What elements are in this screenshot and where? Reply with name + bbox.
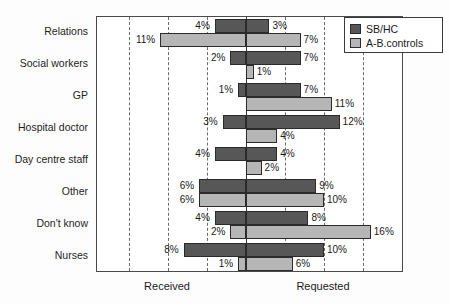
value-label: 6%: [180, 193, 194, 207]
value-label: 6%: [180, 179, 194, 193]
value-label: 1%: [257, 65, 271, 79]
value-label: 16%: [374, 225, 394, 239]
category-label-relations: Relations: [0, 25, 88, 37]
legend-item-sb[interactable]: SB/HC: [350, 22, 437, 35]
bar-sbhc-left: [215, 211, 246, 225]
bar-ab-controls-left: [160, 33, 246, 47]
bar-sbhc-right: [246, 243, 324, 257]
value-label: 10%: [327, 193, 347, 207]
bar-sbhc-left: [230, 51, 246, 65]
bar-ab-controls-left: [230, 225, 246, 239]
value-label: 8%: [164, 243, 178, 257]
bar-ab-controls-right: [246, 225, 371, 239]
bar-sbhc-right: [246, 147, 277, 161]
value-label: 1%: [219, 257, 233, 271]
bar-sbhc-left: [199, 179, 246, 193]
category-label-nurses: Nurses: [0, 249, 88, 261]
axis-caption-requested: Requested: [296, 280, 349, 292]
bar-ab-controls-right: [246, 193, 324, 207]
bar-sbhc-right: [246, 179, 316, 193]
bar-sbhc-right: [246, 19, 269, 33]
value-label: 11%: [136, 33, 155, 47]
bar-ab-controls-right: [246, 257, 293, 271]
plot-area: 4%3%11%7%2%7%1%1%7%11%3%12%4%4%4%2%6%9%6…: [96, 16, 403, 272]
value-label: 4%: [280, 129, 294, 143]
bar-sbhc-right: [246, 83, 301, 97]
value-label: 1%: [219, 83, 233, 97]
bar-ab-controls-right: [246, 161, 262, 175]
legend-label: SB/HC: [366, 23, 398, 35]
bar-sbhc-right: [246, 51, 301, 65]
legend-swatch-icon: [350, 38, 361, 48]
value-label: 9%: [319, 179, 333, 193]
bar-ab-controls-right: [246, 65, 254, 79]
value-label: 7%: [304, 33, 318, 47]
value-label: 3%: [272, 19, 286, 33]
value-label: 4%: [280, 147, 294, 161]
legend-label: A-B.controls: [366, 37, 423, 49]
gridline: [207, 17, 208, 271]
gridline: [168, 17, 169, 271]
bar-ab-controls-left: [238, 257, 246, 271]
value-label: 11%: [335, 97, 354, 111]
chart-legend: SB/HCA-B.controls: [344, 17, 443, 53]
bar-sbhc-left: [215, 19, 246, 33]
value-label: 4%: [195, 19, 209, 33]
chart-page: RelationsSocial workersGPHospital doctor…: [0, 0, 449, 304]
gridline: [129, 17, 130, 271]
value-label: 6%: [296, 257, 310, 271]
value-label: 4%: [195, 147, 209, 161]
bar-sbhc-left: [215, 147, 246, 161]
category-label-gp: GP: [0, 89, 88, 101]
value-label: 8%: [311, 211, 325, 225]
bar-sbhc-left: [184, 243, 246, 257]
bar-sbhc-left: [223, 115, 246, 129]
value-label: 2%: [265, 161, 279, 175]
bar-sbhc-left: [238, 83, 246, 97]
value-label: 10%: [327, 243, 347, 257]
bar-ab-controls-right: [246, 129, 277, 143]
legend-item-ab[interactable]: A-B.controls: [350, 36, 437, 49]
value-label: 4%: [195, 211, 209, 225]
bar-ab-controls-right: [246, 97, 332, 111]
value-label: 2%: [211, 225, 225, 239]
category-label-don-t-know: Don't know: [0, 217, 88, 229]
value-label: 7%: [304, 83, 318, 97]
bar-sbhc-right: [246, 115, 340, 129]
value-label: 7%: [304, 51, 318, 65]
value-label: 12%: [343, 115, 363, 129]
axis-caption-received: Received: [144, 280, 190, 292]
value-label: 3%: [203, 115, 217, 129]
category-label-hospital-doctor: Hospital doctor: [0, 121, 88, 133]
bar-ab-controls-left: [199, 193, 246, 207]
value-label: 2%: [211, 51, 225, 65]
category-label-social-workers: Social workers: [0, 57, 88, 69]
bar-ab-controls-right: [246, 33, 301, 47]
category-label-other: Other: [0, 185, 88, 197]
legend-swatch-icon: [350, 24, 361, 34]
bar-sbhc-right: [246, 211, 308, 225]
category-label-day-centre-staff: Day centre staff: [0, 153, 88, 165]
